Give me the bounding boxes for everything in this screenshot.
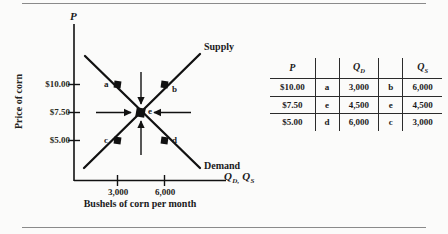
cell-price: $7.50 [270,96,315,113]
y-axis-title: Price of corn [13,57,24,147]
cell-price: $5.00 [270,114,315,131]
point-label-a: a [104,79,109,89]
header-qs-sub: S [424,67,428,74]
cell-price: $10.00 [270,79,315,96]
cell-supply-letter: e [379,96,403,113]
supply-curve-label: Supply [204,41,234,52]
header-qd: QD [339,58,379,79]
q-axis-sub-s: S [250,177,254,185]
header-price: P [270,58,315,79]
table-header-row: P QD QS [270,58,442,79]
x-tick-label-6000: 6,000 [140,187,190,197]
point-marker-b [161,81,169,89]
table-row: $7.50 e 4,500 e 4,500 [270,96,442,113]
header-qd-sub: D [360,67,365,74]
table-body: $10.00 a 3,000 b 6,000 $7.50 e 4,500 e 4… [270,79,442,131]
cell-qd: 4,500 [339,96,379,113]
q-axis-symbol-q1: Q [224,170,232,182]
q-axis-sub-d: D, [232,177,239,185]
x-axis-title: Bushels of corn per month [50,198,230,209]
figure-container: P QD, QS $10.00 $7.50 $5.00 3,000 6,000 … [0,0,448,234]
x-tick-label-3000: 3,000 [93,187,143,197]
cell-qs: 6,000 [403,79,442,96]
p-axis-symbol: P [70,10,77,22]
point-label-d: d [172,135,177,145]
point-label-e: e [148,106,152,116]
cell-supply-letter: c [379,114,403,131]
cell-demand-letter: e [315,96,339,113]
point-marker-e [135,107,145,117]
cell-qs: 3,000 [403,114,442,131]
supply-demand-chart: P QD, QS $10.00 $7.50 $5.00 3,000 6,000 … [0,0,270,234]
cell-supply-letter: b [379,79,403,96]
y-tick-label-750: $7.50 [50,107,70,117]
header-demand-letter [315,58,339,79]
cell-demand-letter: d [315,114,339,131]
point-marker-c [114,137,122,145]
table-row: $10.00 a 3,000 b 6,000 [270,79,442,96]
cell-demand-letter: a [315,79,339,96]
table-header: P QD QS [270,58,442,79]
point-marker-a [114,81,122,89]
point-marker-d [161,137,169,145]
y-tick-label-5: $5.00 [50,135,70,145]
demand-curve-label: Demand [204,160,240,171]
cell-qd: 6,000 [339,114,379,131]
header-qs: QS [403,58,442,79]
header-supply-letter [379,58,403,79]
y-tick-label-10: $10.00 [45,79,70,89]
supply-demand-table: P QD QS $10.00 a 3,000 b 6,000 $7.50 e [270,58,442,131]
table-row: $5.00 d 6,000 c 3,000 [270,114,442,131]
point-label-b: b [172,84,177,94]
q-axis-symbol: QD, QS [224,170,255,185]
point-label-c: c [104,135,108,145]
cell-qd: 3,000 [339,79,379,96]
supply-demand-table-wrapper: P QD QS $10.00 a 3,000 b 6,000 $7.50 e [270,58,442,131]
cell-qs: 4,500 [403,96,442,113]
